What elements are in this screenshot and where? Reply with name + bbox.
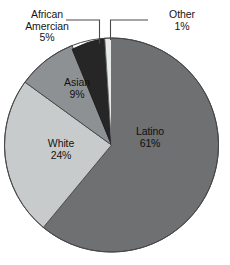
- pie-label-white-percent: 24%: [33, 150, 89, 162]
- pie-label-asian-name: Asian: [51, 77, 103, 89]
- pie-label-other-percent: 1%: [151, 21, 213, 33]
- pie-label-latino: Latino 61%: [121, 126, 179, 149]
- leader-line-other: [111, 20, 149, 40]
- pie-label-asian: Asian 9%: [51, 77, 103, 100]
- pie-label-latino-name: Latino: [121, 126, 179, 138]
- pie-label-other-name: Other: [151, 9, 213, 21]
- pie-label-asian-percent: 9%: [51, 89, 103, 101]
- pie-label-white: White 24%: [33, 138, 89, 161]
- pie-label-latino-percent: 61%: [121, 138, 179, 150]
- pie-chart-figure: African Amercian 5% Other 1% Latino 61% …: [0, 0, 230, 265]
- pie-label-african-american-percent: 5%: [9, 32, 85, 44]
- pie-label-african-american: African Amercian 5%: [9, 9, 85, 44]
- pie-label-white-name: White: [33, 138, 89, 150]
- pie-label-african-american-name-line1: African: [9, 9, 85, 21]
- pie-label-other: Other 1%: [151, 9, 213, 32]
